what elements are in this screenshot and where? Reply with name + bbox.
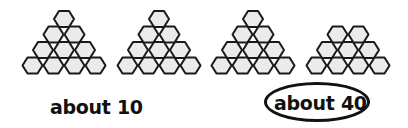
hexagon	[65, 27, 85, 43]
hexagon	[222, 42, 242, 58]
hexagon	[86, 58, 106, 74]
hexagon	[370, 58, 390, 74]
hexagon	[233, 27, 253, 43]
group-3	[212, 11, 295, 74]
hexagon	[118, 58, 138, 74]
hexagon	[338, 42, 358, 58]
hexagon	[328, 58, 348, 74]
hexagon	[44, 27, 64, 43]
hexagon	[33, 42, 53, 58]
hexagon	[128, 42, 148, 58]
hexagon	[349, 27, 369, 43]
label-about-10: about 10	[50, 98, 143, 117]
hexagon	[54, 11, 74, 27]
hexagon	[160, 27, 180, 43]
group-1	[23, 11, 106, 74]
hexagon	[23, 58, 43, 74]
hexagon	[275, 58, 295, 74]
hexagon	[181, 58, 201, 74]
hexagon	[139, 27, 159, 43]
hexagon	[44, 58, 64, 74]
group-2	[118, 11, 201, 74]
label-about-40: about 40	[274, 94, 367, 113]
hexagon	[264, 42, 284, 58]
hexagon	[75, 42, 95, 58]
hexagon	[307, 58, 327, 74]
hexagon	[349, 58, 369, 74]
hexagon	[139, 58, 159, 74]
hexagon	[328, 27, 348, 43]
hexagon	[149, 11, 169, 27]
hexagon	[233, 58, 253, 74]
hexagon	[160, 58, 180, 74]
hexagon	[54, 42, 74, 58]
hexagon	[170, 42, 190, 58]
hexagon	[254, 27, 274, 43]
hexagon	[317, 42, 337, 58]
hexagon	[149, 42, 169, 58]
hexagon	[65, 58, 85, 74]
hexagon	[243, 11, 263, 27]
hexagon	[359, 42, 379, 58]
hexagon	[254, 58, 274, 74]
hexagon	[243, 42, 263, 58]
group-4	[307, 27, 390, 74]
hexagon	[212, 58, 232, 74]
